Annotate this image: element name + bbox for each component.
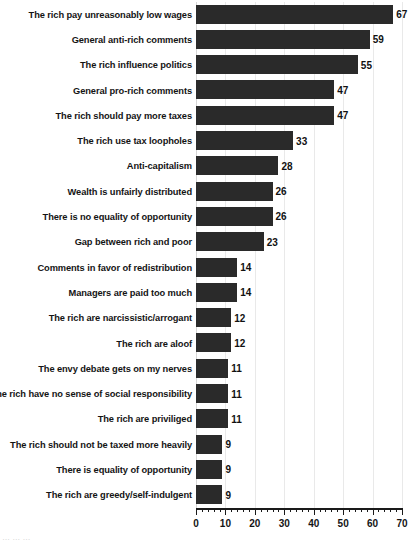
- minor-tick: [367, 508, 368, 512]
- bar: [196, 207, 273, 226]
- bar-value-label: 14: [240, 258, 251, 277]
- bar-row: 23: [196, 230, 402, 255]
- bar-value-label: 47: [337, 106, 348, 125]
- bar-row: 55: [196, 53, 402, 78]
- category-label: The rich are aloof: [116, 331, 192, 356]
- bar: [196, 30, 370, 49]
- bar: [196, 409, 228, 428]
- bar-chart: The rich pay unreasonably low wagesGener…: [0, 0, 413, 542]
- category-label: The envy debate gets on my nerves: [38, 356, 192, 381]
- bar: [196, 460, 222, 479]
- bar-value-label: 28: [281, 157, 292, 176]
- minor-tick: [331, 508, 332, 512]
- x-axis-line: [196, 508, 402, 510]
- major-tick: [196, 508, 197, 515]
- category-label: General anti-rich comments: [72, 27, 192, 52]
- x-tick-label: 50: [338, 518, 349, 529]
- minor-tick: [390, 508, 391, 512]
- plot-area: 6759554747332826262314141212111111999: [196, 2, 402, 508]
- bar-value-label: 9: [225, 435, 231, 454]
- major-tick: [343, 508, 344, 515]
- bar-value-label: 14: [240, 283, 251, 302]
- category-label: There is no equality of opportunity: [43, 204, 192, 229]
- bar: [196, 283, 237, 302]
- category-label: The rich should pay more taxes: [56, 103, 193, 128]
- bar: [196, 80, 334, 99]
- bar-row: 11: [196, 382, 402, 407]
- bar-row: 9: [196, 432, 402, 457]
- x-tick-label: 70: [396, 518, 407, 529]
- x-tick-label: 20: [249, 518, 260, 529]
- bar-row: 59: [196, 27, 402, 52]
- minor-tick: [302, 508, 303, 512]
- minor-tick: [237, 508, 238, 512]
- major-tick: [284, 508, 285, 515]
- bar-value-label: 12: [234, 309, 245, 328]
- bar-row: 14: [196, 280, 402, 305]
- major-tick: [225, 508, 226, 515]
- major-tick: [255, 508, 256, 515]
- category-label: General pro-rich comments: [73, 78, 192, 103]
- category-label: The rich are greedy/self-indulgent: [46, 483, 192, 508]
- minor-tick: [325, 508, 326, 512]
- category-label: Anti-capitalism: [127, 154, 192, 179]
- bar: [196, 308, 231, 327]
- bar-row: 9: [196, 483, 402, 508]
- x-tick-label: 30: [279, 518, 290, 529]
- bar: [196, 232, 264, 251]
- minor-tick: [290, 508, 291, 512]
- category-label: Managers are paid too much: [69, 280, 192, 305]
- bar: [196, 384, 228, 403]
- minor-tick: [261, 508, 262, 512]
- bar: [196, 333, 231, 352]
- major-tick: [314, 508, 315, 515]
- minor-tick: [243, 508, 244, 512]
- x-tick-label: 10: [220, 518, 231, 529]
- bar: [196, 156, 278, 175]
- bar: [196, 258, 237, 277]
- bar-value-label: 59: [373, 30, 384, 49]
- bar-value-label: 47: [337, 81, 348, 100]
- minor-tick: [361, 508, 362, 512]
- minor-tick: [308, 508, 309, 512]
- bar: [196, 5, 393, 24]
- minor-tick: [349, 508, 350, 512]
- minor-tick: [378, 508, 379, 512]
- category-label: The rich have no sense of social respons…: [0, 382, 192, 407]
- bar-value-label: 9: [225, 460, 231, 479]
- bar-value-label: 33: [296, 132, 307, 151]
- bar: [196, 485, 222, 504]
- minor-tick: [214, 508, 215, 512]
- x-tick-label: 0: [193, 518, 199, 529]
- x-axis: [196, 508, 402, 516]
- figure-caption: … … …: [2, 533, 262, 542]
- bar-row: 12: [196, 306, 402, 331]
- minor-tick: [396, 508, 397, 512]
- bar: [196, 359, 228, 378]
- category-label: Gap between rich and poor: [75, 230, 192, 255]
- bar-value-label: 11: [231, 410, 242, 429]
- major-tick: [373, 508, 374, 515]
- bar-value-label: 23: [267, 233, 278, 252]
- minor-tick: [296, 508, 297, 512]
- minor-tick: [249, 508, 250, 512]
- bar-value-label: 55: [361, 56, 372, 75]
- bar-row: 11: [196, 407, 402, 432]
- bar-value-label: 11: [231, 385, 242, 404]
- gridline-70: [402, 2, 403, 508]
- category-label: The rich should not be taxed more heavil…: [10, 432, 192, 457]
- bar-value-label: 11: [231, 359, 242, 378]
- bar-row: 26: [196, 204, 402, 229]
- bar-row: 47: [196, 103, 402, 128]
- category-label: The rich influence politics: [80, 53, 192, 78]
- bar: [196, 182, 273, 201]
- bar-row: 28: [196, 154, 402, 179]
- bar-value-label: 26: [276, 182, 287, 201]
- bar-row: 9: [196, 457, 402, 482]
- minor-tick: [273, 508, 274, 512]
- bar-row: 33: [196, 129, 402, 154]
- bar-value-label: 9: [225, 486, 231, 505]
- category-label: The rich pay unreasonably low wages: [29, 2, 192, 27]
- minor-tick: [220, 508, 221, 512]
- category-label: Wealth is unfairly distributed: [68, 179, 192, 204]
